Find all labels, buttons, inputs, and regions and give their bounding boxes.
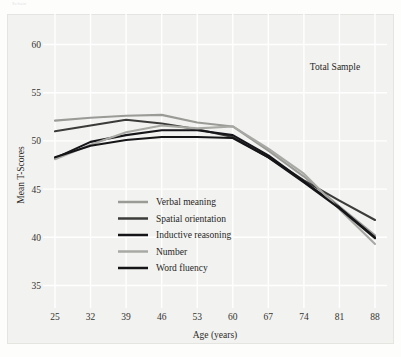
legend-label: Spatial orientation	[156, 214, 226, 224]
y-tick-label: 35	[32, 281, 42, 291]
x-tick-label: 39	[121, 312, 131, 322]
grid-lines	[43, 12, 387, 308]
legend-label: Number	[156, 247, 188, 257]
y-tick-label: 60	[32, 40, 42, 50]
x-axis-title: Age (years)	[193, 330, 238, 341]
figure-container: Schaie 25323946536067748188 354045505560…	[0, 0, 401, 357]
x-tick-label: 81	[335, 312, 345, 322]
y-tick-label: 40	[32, 233, 42, 243]
y-tick-label: 45	[32, 185, 42, 195]
total-sample-annotation: Total Sample	[310, 62, 360, 72]
x-tick-label: 74	[299, 312, 309, 322]
x-tick-label: 32	[86, 312, 96, 322]
x-tick-label: 53	[192, 312, 202, 322]
x-tick-label: 88	[370, 312, 380, 322]
x-tick-label: 60	[228, 312, 238, 322]
x-tick-labels: 25323946536067748188	[50, 312, 380, 322]
line-chart: 25323946536067748188 354045505560 Verbal…	[0, 0, 401, 357]
x-tick-label: 25	[50, 312, 60, 322]
x-tick-label: 67	[264, 312, 274, 322]
y-tick-label: 55	[32, 88, 42, 98]
data-series-group	[55, 115, 375, 244]
legend-label: Verbal meaning	[156, 197, 216, 207]
y-tick-labels: 354045505560	[32, 40, 42, 291]
legend-label: Word fluency	[156, 263, 208, 273]
legend-label: Inductive reasoning	[156, 230, 231, 240]
y-tick-label: 50	[32, 136, 42, 146]
x-tick-label: 46	[157, 312, 167, 322]
legend: Verbal meaningSpatial orientationInducti…	[118, 197, 231, 273]
y-axis-title: Mean T-Scores	[16, 146, 26, 204]
